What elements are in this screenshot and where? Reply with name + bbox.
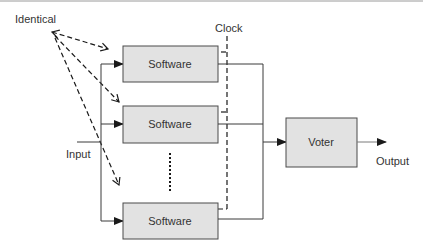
clock-line [218,36,227,209]
clock-label: Clock [215,22,243,34]
input-label: Input [66,148,90,160]
dashed-arrow-to-software-1 [52,32,108,49]
voter-label: Voter [308,136,334,148]
output-collector [218,64,263,219]
software-box-2-label: Software [148,118,191,130]
voter-box: Voter [286,118,357,167]
software-box-1: Software [123,46,218,82]
dashed-arrow-to-software-2 [55,36,119,102]
n-version-programming-diagram: Identical Clock Input Software Software … [0,0,423,248]
identical-label: Identical [15,13,56,25]
dashed-arrow-to-software-3 [55,38,119,185]
output-label: Output [376,155,409,167]
software-box-3-label: Software [148,215,191,227]
software-box-2: Software [123,106,218,143]
software-box-3: Software [123,203,218,239]
identical-dashed-arrows [52,32,119,185]
software-box-1-label: Software [148,58,191,70]
